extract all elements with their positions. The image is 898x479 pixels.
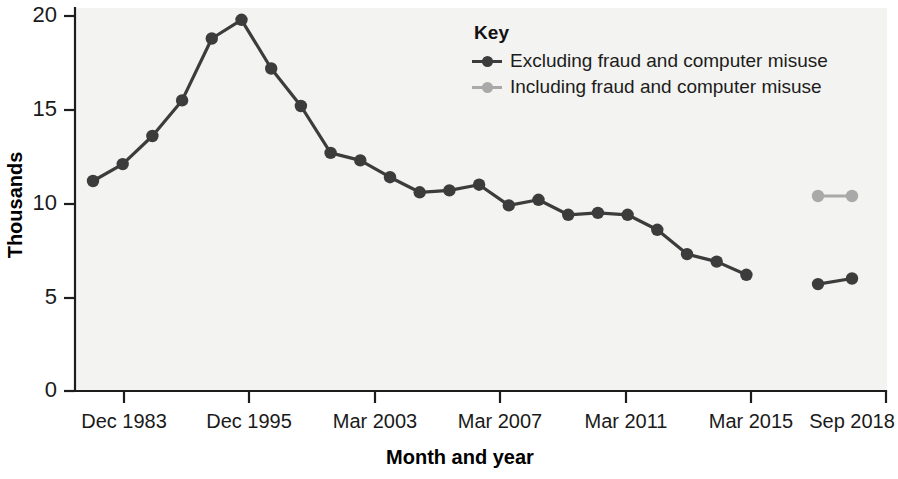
data-point-excluding bbox=[443, 184, 455, 196]
data-point-excluding bbox=[592, 207, 604, 219]
data-point-excluding bbox=[711, 255, 723, 267]
y-axis-title: Thousands bbox=[4, 152, 26, 259]
x-tick-label-sep-2018: Sep 2018 bbox=[809, 410, 895, 432]
y-tick-label-5: 5 bbox=[45, 284, 57, 309]
line-chart: 20 15 10 5 0 Dec 1983 Dec 1995 Mar 2003 … bbox=[0, 0, 898, 479]
data-point-excluding bbox=[324, 147, 336, 159]
x-tick-label-dec-1983: Dec 1983 bbox=[81, 410, 167, 432]
legend-label-excluding: Excluding fraud and computer misuse bbox=[510, 50, 828, 72]
data-point-excluding bbox=[846, 272, 858, 284]
data-point-excluding bbox=[265, 62, 277, 74]
x-tick-label-mar-2007: Mar 2007 bbox=[458, 410, 543, 432]
data-point-excluding bbox=[681, 248, 693, 260]
data-point-excluding bbox=[384, 171, 396, 183]
data-point-excluding bbox=[354, 154, 366, 166]
legend-item-including[interactable]: Including fraud and computer misuse bbox=[472, 74, 872, 100]
data-point-excluding bbox=[740, 269, 752, 281]
legend: Key Excluding fraud and computer misuse … bbox=[472, 22, 872, 100]
data-point-excluding bbox=[87, 175, 99, 187]
data-point-including bbox=[846, 190, 858, 202]
x-axis-title: Month and year bbox=[386, 446, 534, 468]
data-point-excluding bbox=[562, 209, 574, 221]
x-axis-ticks bbox=[124, 391, 886, 403]
data-point-excluding bbox=[621, 209, 633, 221]
y-tick-label-15: 15 bbox=[33, 96, 57, 121]
y-axis-ticks bbox=[64, 16, 75, 391]
data-point-excluding bbox=[146, 130, 158, 142]
x-tick-label-dec-1995: Dec 1995 bbox=[206, 410, 292, 432]
legend-marker-excluding-icon bbox=[472, 53, 502, 69]
data-point-excluding bbox=[206, 32, 218, 44]
y-tick-label-10: 10 bbox=[33, 190, 57, 215]
data-point-excluding bbox=[235, 14, 247, 26]
data-point-excluding bbox=[117, 158, 129, 170]
data-point-including bbox=[812, 190, 824, 202]
legend-title: Key bbox=[474, 22, 872, 44]
data-point-excluding bbox=[503, 199, 515, 211]
legend-label-including: Including fraud and computer misuse bbox=[510, 76, 822, 98]
y-tick-label-0: 0 bbox=[45, 377, 57, 402]
legend-marker-including-icon bbox=[472, 79, 502, 95]
data-point-excluding bbox=[176, 94, 188, 106]
data-point-excluding bbox=[295, 100, 307, 112]
data-point-excluding bbox=[532, 194, 544, 206]
x-tick-label-mar-2015: Mar 2015 bbox=[709, 410, 794, 432]
data-point-excluding bbox=[812, 278, 824, 290]
data-point-excluding bbox=[414, 186, 426, 198]
x-tick-label-mar-2003: Mar 2003 bbox=[333, 410, 418, 432]
data-point-excluding bbox=[651, 224, 663, 236]
data-point-excluding bbox=[473, 179, 485, 191]
y-tick-label-20: 20 bbox=[33, 2, 57, 27]
legend-item-excluding[interactable]: Excluding fraud and computer misuse bbox=[472, 48, 872, 74]
x-tick-label-mar-2011: Mar 2011 bbox=[584, 410, 667, 432]
